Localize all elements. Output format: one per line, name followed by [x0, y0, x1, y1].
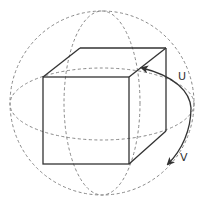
label-u: U: [178, 71, 186, 82]
cube-front-face: [43, 77, 129, 164]
cube-bottom-right-edge: [129, 131, 166, 164]
diagram-svg: [0, 0, 203, 204]
label-v: V: [180, 152, 188, 163]
cube-top-right-edge: [129, 48, 166, 77]
cube: [43, 48, 166, 164]
cube-top-left-edge: [43, 48, 80, 77]
diagram-canvas: U V: [0, 0, 203, 204]
